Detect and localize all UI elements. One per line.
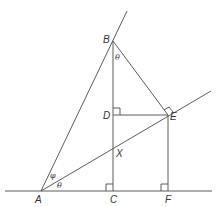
angle-phi-a: φ bbox=[50, 171, 56, 180]
label-x: X bbox=[115, 148, 123, 159]
label-a: A bbox=[34, 194, 42, 205]
label-f: F bbox=[165, 194, 172, 205]
line-ae bbox=[41, 91, 211, 191]
right-angle-d-icon bbox=[113, 108, 120, 115]
line-ab bbox=[41, 11, 127, 191]
label-d: D bbox=[103, 110, 110, 121]
label-b: B bbox=[103, 34, 110, 45]
right-angle-c-icon bbox=[106, 184, 113, 191]
line-be bbox=[113, 41, 168, 115]
geometry-diagram: B D E X A C F θ φ θ bbox=[0, 0, 217, 207]
angle-theta-b: θ bbox=[115, 53, 120, 62]
label-c: C bbox=[110, 194, 118, 205]
angle-theta-a: θ bbox=[57, 181, 62, 190]
right-angle-f-icon bbox=[161, 184, 168, 191]
label-e: E bbox=[170, 111, 177, 122]
